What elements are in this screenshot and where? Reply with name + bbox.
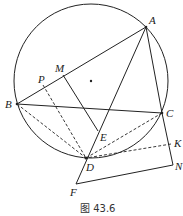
label-D: D xyxy=(85,161,94,173)
figure-caption: 图 43.6 xyxy=(80,203,115,214)
label-A: A xyxy=(148,14,156,26)
label-E: E xyxy=(99,131,107,143)
point-A xyxy=(145,26,148,29)
label-F: F xyxy=(69,186,77,198)
point-C xyxy=(161,112,164,115)
segment-AB xyxy=(17,27,146,104)
label-B: B xyxy=(5,98,12,110)
point-D xyxy=(85,157,88,160)
dashed-KD xyxy=(86,144,171,158)
dashed-BD xyxy=(17,104,86,158)
segment-CN xyxy=(162,113,173,165)
label-C: C xyxy=(166,107,174,119)
label-K: K xyxy=(173,137,182,149)
segment-BC xyxy=(17,104,162,113)
label-M: M xyxy=(54,62,65,74)
label-P: P xyxy=(37,73,45,85)
segment-AC xyxy=(146,27,162,113)
circle-center-dot xyxy=(90,80,92,82)
geometry-figure: A B C D E F M P K N 图 43.6 xyxy=(0,0,183,216)
dashed-PD xyxy=(43,85,86,158)
point-B xyxy=(16,103,19,106)
label-N: N xyxy=(174,160,183,172)
segment-ME xyxy=(63,75,98,131)
